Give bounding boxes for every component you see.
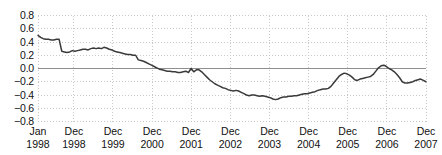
x-tick-label: Dec1999 bbox=[91, 125, 135, 150]
x-tick-label-month: Dec bbox=[287, 125, 331, 138]
y-tick-label: −0.4 bbox=[0, 89, 34, 101]
x-tick-label-month: Dec bbox=[169, 125, 213, 138]
x-tick-label-month: Dec bbox=[326, 125, 370, 138]
y-tick-label: −0.6 bbox=[0, 102, 34, 114]
y-tick-label: 0.2 bbox=[0, 49, 34, 61]
x-tick-label-year: 2003 bbox=[248, 138, 292, 151]
x-tick-label-year: 1998 bbox=[52, 138, 96, 151]
x-tick-label: Dec1998 bbox=[52, 125, 96, 150]
y-tick-label: 0.0 bbox=[0, 62, 34, 74]
x-tick-label: Dec2003 bbox=[248, 125, 292, 150]
x-tick-label-year: 2006 bbox=[365, 138, 409, 151]
x-tick-label-month: Dec bbox=[248, 125, 292, 138]
x-tick-label-year: 2001 bbox=[169, 138, 213, 151]
y-tick-label: 0.6 bbox=[0, 22, 34, 34]
x-tick-label-year: 2005 bbox=[326, 138, 370, 151]
y-tick-label: −0.2 bbox=[0, 75, 34, 87]
x-tick-label-year: 2007 bbox=[404, 138, 442, 151]
x-tick-label-month: Dec bbox=[130, 125, 174, 138]
y-tick-label: 0.8 bbox=[0, 9, 34, 21]
x-tick-label-month: Dec bbox=[52, 125, 96, 138]
x-tick-label-month: Dec bbox=[404, 125, 442, 138]
x-tick-label-year: 1999 bbox=[91, 138, 135, 151]
x-tick-label: Dec2000 bbox=[130, 125, 174, 150]
x-tick-label: Dec2007 bbox=[404, 125, 442, 150]
y-tick-label: 0.4 bbox=[0, 36, 34, 48]
x-tick-label: Dec2002 bbox=[208, 125, 252, 150]
x-tick-label-month: Dec bbox=[208, 125, 252, 138]
x-tick-label: Dec2001 bbox=[169, 125, 213, 150]
x-tick-label-year: 2004 bbox=[287, 138, 331, 151]
x-tick-label: Dec2005 bbox=[326, 125, 370, 150]
x-tick-label: Dec2004 bbox=[287, 125, 331, 150]
x-tick-label-year: 2002 bbox=[208, 138, 252, 151]
x-tick-label: Dec2006 bbox=[365, 125, 409, 150]
data-line-1 bbox=[38, 35, 426, 99]
x-tick-label-month: Dec bbox=[365, 125, 409, 138]
x-tick-label-month: Dec bbox=[91, 125, 135, 138]
x-tick-label-year: 2000 bbox=[130, 138, 174, 151]
